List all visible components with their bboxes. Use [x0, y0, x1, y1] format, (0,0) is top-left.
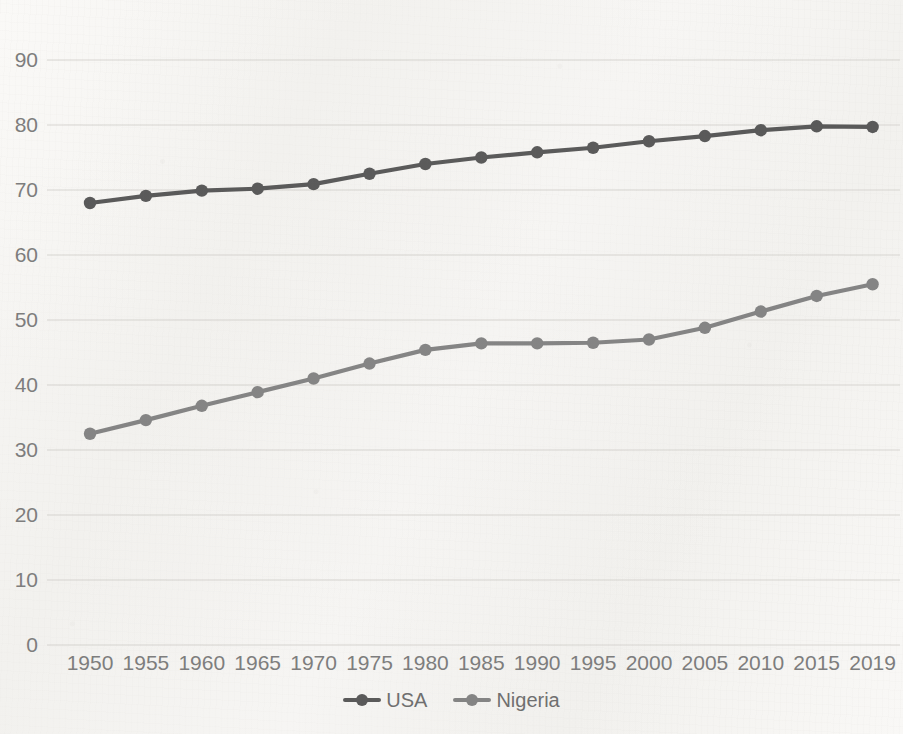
data-point[interactable] — [419, 158, 431, 170]
data-point[interactable] — [307, 178, 319, 190]
series-nigeria — [84, 278, 879, 440]
data-point[interactable] — [475, 151, 487, 163]
x-tick-label: 1995 — [565, 652, 621, 673]
legend-item-nigeria[interactable]: Nigeria — [453, 690, 559, 710]
legend-dot — [356, 694, 368, 706]
data-point[interactable] — [643, 333, 655, 345]
legend-label: Nigeria — [496, 690, 559, 710]
x-tick-label: 1990 — [509, 652, 565, 673]
y-tick-label: 30 — [0, 439, 38, 460]
data-point[interactable] — [587, 142, 599, 154]
data-point[interactable] — [363, 168, 375, 180]
y-tick-label: 50 — [0, 309, 38, 330]
x-tick-label: 1980 — [397, 652, 453, 673]
x-tick-label: 2010 — [733, 652, 789, 673]
y-tick-label: 90 — [0, 49, 38, 70]
data-point[interactable] — [531, 337, 543, 349]
x-tick-label: 1965 — [230, 652, 286, 673]
data-point[interactable] — [196, 184, 208, 196]
gridlines — [47, 60, 900, 645]
legend-label: USA — [386, 690, 427, 710]
y-tick-label: 40 — [0, 374, 38, 395]
x-tick-label: 1960 — [174, 652, 230, 673]
x-tick-label: 1955 — [118, 652, 174, 673]
legend-dot — [466, 694, 478, 706]
line-chart: 9080706050403020100 19501955196019651970… — [0, 0, 903, 734]
chart-legend: USANigeria — [0, 690, 903, 710]
data-point[interactable] — [643, 135, 655, 147]
data-point[interactable] — [84, 428, 96, 440]
x-tick-label: 1975 — [342, 652, 398, 673]
legend-item-usa[interactable]: USA — [343, 690, 427, 710]
data-point[interactable] — [699, 130, 711, 142]
x-tick-label: 2005 — [677, 652, 733, 673]
data-point[interactable] — [140, 190, 152, 202]
x-tick-label: 2019 — [845, 652, 901, 673]
series-usa — [84, 120, 879, 209]
data-point[interactable] — [140, 414, 152, 426]
data-point[interactable] — [531, 146, 543, 158]
data-point[interactable] — [419, 344, 431, 356]
legend-marker-icon — [343, 693, 381, 707]
y-tick-label: 10 — [0, 569, 38, 590]
series-line-nigeria — [90, 284, 873, 434]
data-point[interactable] — [252, 183, 264, 195]
data-point[interactable] — [363, 357, 375, 369]
data-point[interactable] — [252, 386, 264, 398]
data-point[interactable] — [866, 278, 878, 290]
data-point[interactable] — [307, 372, 319, 384]
x-tick-label: 1970 — [286, 652, 342, 673]
data-point[interactable] — [811, 290, 823, 302]
plot-area — [0, 0, 903, 734]
x-tick-label: 2000 — [621, 652, 677, 673]
y-tick-label: 60 — [0, 244, 38, 265]
x-tick-label: 2015 — [789, 652, 845, 673]
x-tick-label: 1950 — [62, 652, 118, 673]
y-tick-label: 0 — [0, 634, 38, 655]
y-tick-label: 70 — [0, 179, 38, 200]
legend-marker-icon — [453, 693, 491, 707]
data-point[interactable] — [196, 400, 208, 412]
data-point[interactable] — [475, 337, 487, 349]
y-tick-label: 20 — [0, 504, 38, 525]
data-point[interactable] — [755, 305, 767, 317]
data-point[interactable] — [811, 120, 823, 132]
data-point[interactable] — [755, 124, 767, 136]
data-point[interactable] — [587, 337, 599, 349]
data-point[interactable] — [699, 322, 711, 334]
data-point[interactable] — [866, 121, 878, 133]
data-point[interactable] — [84, 197, 96, 209]
x-tick-label: 1985 — [453, 652, 509, 673]
y-tick-label: 80 — [0, 114, 38, 135]
